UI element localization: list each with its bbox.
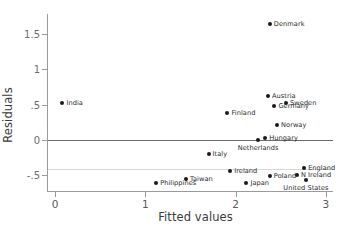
y-axis-tick-mark: [42, 34, 47, 35]
data-point-marker[interactable]: [263, 136, 267, 140]
x-axis-tick-label: 1: [142, 198, 149, 210]
data-point-label: Norway: [281, 121, 306, 129]
data-point-label: Taiwan: [190, 175, 213, 183]
data-point-label: Netherlands: [238, 144, 279, 152]
data-point-marker[interactable]: [284, 101, 288, 105]
x-axis-tick-label: 2: [232, 198, 239, 210]
data-point-label: Japan: [250, 179, 269, 187]
data-point-marker[interactable]: [228, 169, 232, 173]
y-axis-tick-mark: [42, 105, 47, 106]
x-axis-tick-mark: [326, 192, 327, 197]
x-axis-tick-label: 3: [322, 198, 329, 210]
data-point-label: Hungary: [269, 134, 298, 142]
data-point-marker[interactable]: [266, 94, 270, 98]
y-axis-tick-label: 0: [0, 135, 40, 146]
data-point-label: Poland: [274, 172, 296, 180]
y-axis-tick-label: 1: [0, 64, 40, 75]
x-axis-tick-mark: [236, 192, 237, 197]
data-point-label: India: [66, 99, 82, 107]
data-point-marker[interactable]: [295, 173, 299, 177]
y-axis-tick-mark: [42, 69, 47, 70]
residuals-vs-fitted-scatter-plot: Residuals Fitted values 1.51.50-.50123 I…: [0, 0, 343, 230]
data-point-marker[interactable]: [272, 104, 276, 108]
data-point-label: Sweden: [290, 99, 316, 107]
x-axis-tick-mark: [55, 192, 56, 197]
data-point-label: Ireland: [234, 167, 257, 175]
x-axis-tick-label: 0: [52, 198, 59, 210]
data-point-marker[interactable]: [60, 101, 64, 105]
data-point-label: United States: [283, 184, 328, 192]
data-point-marker[interactable]: [154, 181, 158, 185]
data-point-marker[interactable]: [268, 174, 272, 178]
data-point-marker[interactable]: [304, 178, 308, 182]
data-point-label: Finland: [231, 109, 255, 117]
plot-data-area: IndiaPhilippinesTaiwanItalyFinlandIrelan…: [48, 14, 333, 191]
data-point-marker[interactable]: [207, 152, 211, 156]
data-point-marker[interactable]: [184, 177, 188, 181]
y-axis-tick-label: 1.5: [0, 28, 40, 39]
data-point-marker[interactable]: [244, 181, 248, 185]
data-point-marker[interactable]: [256, 138, 260, 142]
y-axis-tick-mark: [42, 140, 47, 141]
data-point-label: England: [308, 164, 335, 172]
y-axis-tick-label: -.5: [0, 170, 40, 181]
data-point-label: Denmark: [274, 20, 305, 28]
y-axis-tick-label: .5: [0, 99, 40, 110]
x-axis-title: Fitted values: [48, 210, 343, 224]
data-point-marker[interactable]: [268, 22, 272, 26]
data-point-label: Italy: [213, 150, 228, 158]
data-point-marker[interactable]: [225, 111, 229, 115]
x-axis-tick-mark: [145, 192, 146, 197]
data-point-marker[interactable]: [275, 123, 279, 127]
data-point-marker[interactable]: [302, 166, 306, 170]
y-axis-tick-mark: [42, 175, 47, 176]
